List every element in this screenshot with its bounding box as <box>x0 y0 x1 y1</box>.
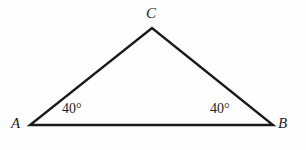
vertex-label-c: C <box>146 6 156 21</box>
vertex-label-b: B <box>278 116 287 131</box>
angle-label-at-b: 40° <box>210 102 230 116</box>
triangle-drawing <box>0 0 306 150</box>
geometry-figure: C A B 40° 40° <box>0 0 306 150</box>
angle-label-at-a: 40° <box>62 102 82 116</box>
vertex-label-a: A <box>11 116 20 131</box>
